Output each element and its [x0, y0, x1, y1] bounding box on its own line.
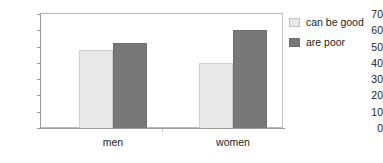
legend: can be good are poor: [289, 14, 383, 54]
bar-chart: 706050403020100 menwomen can be good are…: [0, 0, 383, 163]
legend-item-label: can be good: [306, 17, 364, 28]
bar-men-can-be-good: [79, 50, 113, 128]
y-tick-label: 20: [353, 90, 383, 101]
x-tick-label-men: men: [49, 137, 177, 148]
x-axis-center-tick: [162, 129, 163, 132]
y-tick-label: 10: [353, 107, 383, 118]
bar-women-can-be-good: [199, 63, 233, 128]
bar-women-are-poor: [233, 30, 267, 128]
y-tick-label: 40: [353, 58, 383, 69]
bar-men-are-poor: [113, 43, 147, 128]
dark-gray-swatch-icon: [289, 38, 300, 47]
x-tick-label-women: women: [169, 137, 297, 148]
legend-item-label: are poor: [306, 37, 345, 48]
bars-layer: [41, 14, 283, 128]
y-tick-label: 30: [353, 74, 383, 85]
legend-item-can-be-good[interactable]: can be good: [289, 14, 383, 31]
light-gray-swatch-icon: [289, 18, 300, 27]
y-tick-label: 0: [353, 123, 383, 134]
legend-item-are-poor[interactable]: are poor: [289, 34, 383, 51]
